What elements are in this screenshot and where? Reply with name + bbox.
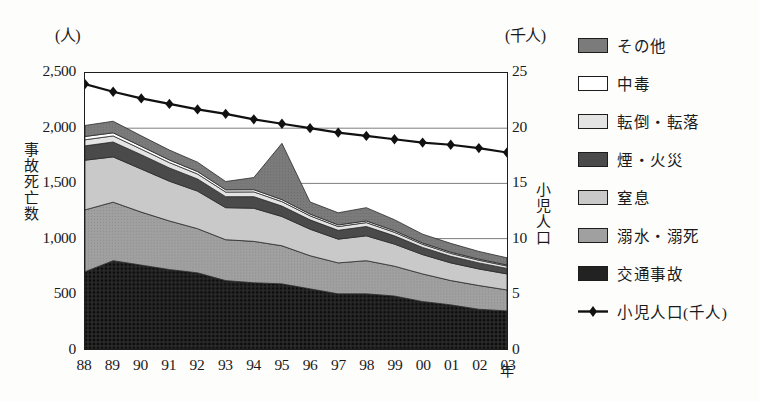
left-tick-label: 500: [30, 284, 76, 302]
x-tick-label: 88: [69, 356, 99, 374]
legend-swatch: [578, 228, 608, 243]
right-tick-label: 20: [512, 118, 552, 136]
legend-label: 煙・火災: [617, 148, 683, 170]
stacked-areas: [85, 121, 507, 349]
line-marker: [334, 127, 342, 137]
right-tick-label: 5: [512, 284, 552, 302]
legend-label: 溺水・溺死: [617, 224, 700, 246]
x-tick-label: 00: [408, 356, 438, 374]
legend-swatch: [578, 152, 608, 167]
x-tick-label: 90: [126, 356, 156, 374]
legend-item[interactable]: 交通事故: [578, 254, 756, 292]
chart-canvas: [85, 73, 507, 349]
x-tick-label: 91: [154, 356, 184, 374]
line-marker-icon: [578, 304, 608, 319]
legend-swatch: [578, 114, 608, 129]
legend-item[interactable]: その他: [578, 26, 756, 64]
x-tick-label: 93: [210, 356, 240, 374]
legend-label: その他: [617, 34, 667, 56]
right-tick-label: 15: [512, 173, 552, 191]
x-tick-label: 97: [323, 356, 353, 374]
line-marker: [475, 143, 483, 153]
legend-label: 交通事故: [617, 262, 683, 284]
line-marker: [390, 134, 398, 144]
right-axis-unit: (千人): [505, 22, 546, 46]
chart-root: (人) (千人) 事故死亡数 小児人口: [0, 0, 759, 401]
left-tick-label: 1,500: [30, 173, 76, 191]
line-marker: [418, 137, 426, 147]
legend-swatch: [578, 266, 608, 281]
x-tick-label: 98: [352, 356, 382, 374]
legend-swatch: [578, 190, 608, 205]
legend-label: 窒息: [617, 186, 650, 208]
right-tick-label: 10: [512, 229, 552, 247]
line-marker: [165, 99, 173, 109]
line-marker: [137, 93, 145, 103]
x-tick-label: 96: [295, 356, 325, 374]
left-tick-label: 1,000: [30, 229, 76, 247]
line-marker: [306, 123, 314, 133]
legend-label: 中毒: [617, 72, 650, 94]
plot-area: [84, 72, 508, 350]
x-tick-label: 02: [465, 356, 495, 374]
line-marker: [250, 114, 258, 124]
legend-swatch: [578, 38, 608, 53]
line-marker: [278, 119, 286, 129]
line-marker: [447, 140, 455, 150]
legend-label: 小児人口(千人): [617, 300, 727, 322]
x-tick-label: 95: [267, 356, 297, 374]
left-tick-label: 2,500: [30, 62, 76, 80]
legend-item[interactable]: 窒息: [578, 178, 756, 216]
line-marker: [503, 147, 507, 157]
x-tick-label: 01: [436, 356, 466, 374]
x-tick-label: 92: [182, 356, 212, 374]
x-tick-label: 99: [380, 356, 410, 374]
legend: その他中毒転倒・転落煙・火災窒息溺水・溺死交通事故小児人口(千人): [578, 26, 756, 330]
line-marker: [193, 104, 201, 114]
legend-label: 転倒・転落: [617, 110, 700, 132]
line-marker: [362, 131, 370, 141]
left-axis-unit: (人): [55, 22, 80, 46]
x-tick-label: 94: [239, 356, 269, 374]
x-tick-label: 89: [97, 356, 127, 374]
left-tick-label: 2,000: [30, 118, 76, 136]
line-marker: [109, 87, 117, 97]
legend-item[interactable]: 溺水・溺死: [578, 216, 756, 254]
legend-swatch: [578, 76, 608, 91]
legend-item[interactable]: 煙・火災: [578, 140, 756, 178]
line-marker: [85, 79, 89, 89]
x-axis-unit: 年: [500, 360, 514, 380]
line-marker: [222, 109, 230, 119]
right-tick-label: 25: [512, 62, 552, 80]
legend-item[interactable]: 転倒・転落: [578, 102, 756, 140]
legend-item[interactable]: 中毒: [578, 64, 756, 102]
legend-item[interactable]: 小児人口(千人): [578, 292, 756, 330]
